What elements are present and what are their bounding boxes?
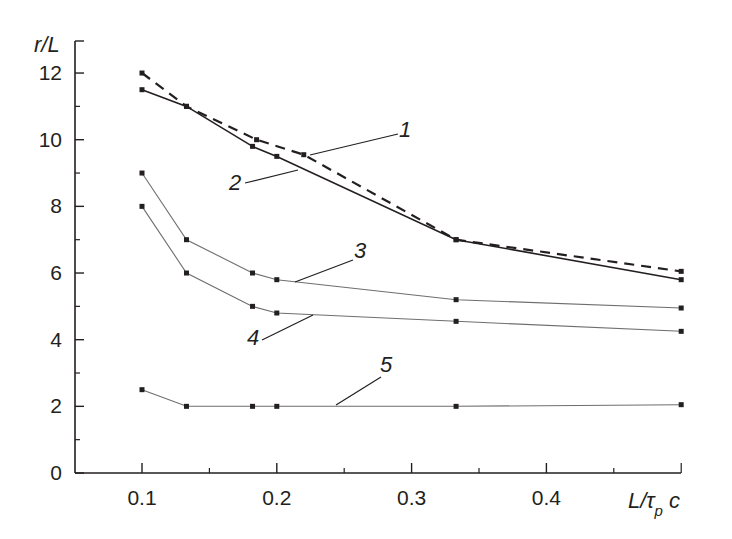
data-point-marker: [274, 311, 279, 316]
data-point-marker: [184, 271, 189, 276]
series-2: [140, 87, 684, 282]
data-point-marker: [140, 387, 145, 392]
y-tick-label: 4: [50, 328, 62, 351]
y-tick-label: 2: [50, 394, 62, 417]
data-point-marker: [679, 402, 684, 407]
data-point-marker: [679, 329, 684, 334]
data-point-marker: [301, 152, 306, 157]
curve-label-4: 4: [247, 315, 313, 350]
x-tick-label: 0.4: [532, 486, 562, 509]
x-axis-title: L/τp c: [628, 488, 680, 519]
series-line: [142, 173, 681, 308]
data-point-marker: [184, 104, 189, 109]
data-point-marker: [274, 154, 279, 159]
line-chart: 024681012 0.10.20.30.4 r/L L/τp c 12345: [0, 0, 732, 539]
leader-line: [310, 134, 398, 155]
data-point-marker: [250, 144, 255, 149]
data-point-marker: [454, 237, 459, 242]
leader-line: [295, 260, 353, 282]
leader-line: [245, 170, 298, 183]
leader-line: [336, 377, 381, 405]
data-point-marker: [140, 204, 145, 209]
y-tick-label: 12: [39, 61, 62, 84]
data-point-marker: [254, 137, 259, 142]
x-tick-label: 0.2: [262, 486, 291, 509]
data-point-marker: [250, 304, 255, 309]
y-tick-label: 0: [50, 461, 62, 484]
series-line: [142, 390, 681, 407]
series-group: [140, 71, 684, 409]
y-axis-title: r/L: [34, 32, 60, 57]
series-line: [142, 90, 681, 280]
curve-label-1: 1: [310, 117, 411, 155]
leader-line: [262, 315, 313, 340]
data-point-marker: [454, 319, 459, 324]
series-line: [142, 206, 681, 331]
data-point-marker: [250, 271, 255, 276]
data-point-marker: [679, 277, 684, 282]
data-point-marker: [140, 71, 145, 76]
curve-labels: 12345: [228, 117, 411, 405]
axes: 024681012 0.10.20.30.4 r/L L/τp c: [34, 32, 681, 519]
data-point-marker: [140, 171, 145, 176]
data-point-marker: [140, 87, 145, 92]
data-point-marker: [274, 404, 279, 409]
data-point-marker: [184, 237, 189, 242]
curve-label-2: 2: [228, 170, 298, 195]
data-point-marker: [454, 297, 459, 302]
data-point-marker: [184, 404, 189, 409]
data-point-marker: [454, 404, 459, 409]
curve-number: 4: [247, 325, 259, 350]
y-ticks: 024681012: [39, 61, 84, 484]
curve-number: 3: [354, 238, 367, 263]
curve-number: 2: [228, 170, 241, 195]
series-1: [140, 71, 684, 274]
curve-number: 1: [399, 117, 411, 142]
curve-label-3: 3: [295, 238, 367, 282]
data-point-marker: [250, 404, 255, 409]
series-line: [142, 73, 681, 271]
data-point-marker: [274, 277, 279, 282]
data-point-marker: [679, 306, 684, 311]
x-tick-label: 0.1: [127, 486, 156, 509]
series-5: [140, 387, 684, 409]
curve-label-5: 5: [336, 352, 393, 405]
y-tick-label: 6: [50, 261, 62, 284]
x-tick-label: 0.3: [397, 486, 426, 509]
series-4: [140, 204, 684, 334]
series-3: [140, 171, 684, 311]
y-tick-label: 10: [39, 128, 62, 151]
data-point-marker: [679, 269, 684, 274]
x-ticks: 0.10.20.30.4: [127, 463, 681, 509]
curve-number: 5: [380, 352, 393, 377]
y-tick-label: 8: [50, 194, 62, 217]
